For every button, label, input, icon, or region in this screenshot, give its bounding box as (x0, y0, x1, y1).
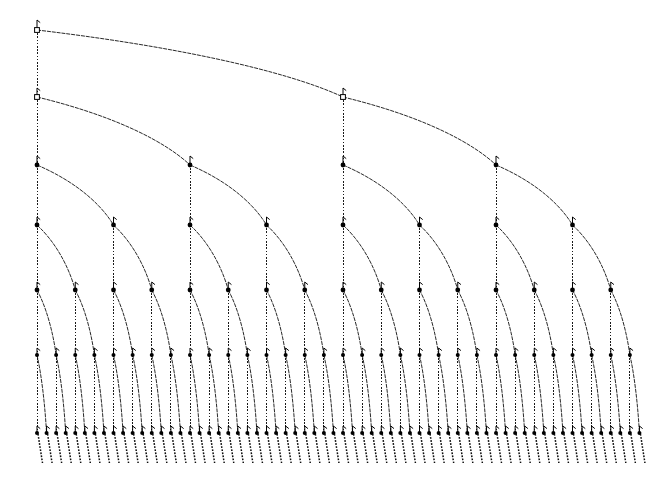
node-marker-dot (532, 353, 536, 357)
node-marker-dot (494, 223, 499, 228)
node-marker-dot (73, 288, 78, 293)
node-marker-dot (570, 288, 575, 293)
node-marker-dot (35, 353, 39, 357)
node-marker-dot (417, 223, 422, 228)
node-marker-open (341, 95, 346, 100)
node-marker-dot (628, 353, 632, 357)
node-marker-dot (571, 353, 575, 357)
node-marker-dot (265, 353, 269, 357)
node-marker-dot (111, 223, 116, 228)
node-marker-dot (303, 353, 307, 357)
node-marker-dot (54, 353, 58, 357)
node-marker-dot (417, 288, 422, 293)
node-marker-dot (73, 353, 77, 357)
node-marker-dot (188, 163, 193, 168)
node-marker-open (35, 95, 40, 100)
node-marker-dot (35, 288, 40, 293)
node-marker-dot (418, 353, 422, 357)
node-marker-dot (398, 353, 402, 357)
node-marker-dot (188, 353, 192, 357)
node-marker-dot (437, 353, 441, 357)
node-marker-dot (608, 288, 613, 293)
tree-diagram-canvas (0, 0, 668, 478)
node-marker-dot (302, 288, 307, 293)
node-marker-dot (245, 353, 249, 357)
node-marker-dot (494, 163, 499, 168)
node-marker-dot (322, 353, 326, 357)
node-marker-dot (112, 353, 116, 357)
node-marker-dot (360, 353, 364, 357)
node-marker-dot (341, 163, 346, 168)
node-marker-dot (379, 288, 384, 293)
node-marker-dot (150, 353, 154, 357)
node-marker-dot (149, 288, 154, 293)
node-marker-dot (513, 353, 517, 357)
node-marker-dot (379, 353, 383, 357)
node-marker-dot (111, 288, 116, 293)
node-marker-dot (570, 223, 575, 228)
node-marker-dot (169, 353, 173, 357)
node-marker-dot (456, 353, 460, 357)
node-marker-dot (494, 353, 498, 357)
node-marker-dot (455, 288, 460, 293)
node-marker-dot (590, 353, 594, 357)
node-marker-dot (35, 163, 40, 168)
node-marker-dot (188, 223, 193, 228)
node-marker-dot (494, 288, 499, 293)
node-marker-dot (188, 288, 193, 293)
figure-background (0, 0, 668, 478)
node-marker-dot (131, 353, 135, 357)
node-marker-dot (264, 223, 269, 228)
node-marker-dot (264, 288, 269, 293)
node-marker-dot (609, 353, 613, 357)
node-marker-dot (226, 288, 231, 293)
node-marker-dot (341, 288, 346, 293)
node-marker-dot (475, 353, 479, 357)
node-marker-open (35, 28, 40, 33)
node-marker-dot (341, 353, 345, 357)
tree-svg (0, 0, 668, 478)
node-marker-dot (92, 353, 96, 357)
node-marker-dot (532, 288, 537, 293)
node-marker-dot (341, 223, 346, 228)
node-marker-dot (207, 353, 211, 357)
node-marker-dot (551, 353, 555, 357)
node-marker-dot (226, 353, 230, 357)
node-marker-dot (35, 223, 40, 228)
node-marker-dot (284, 353, 288, 357)
